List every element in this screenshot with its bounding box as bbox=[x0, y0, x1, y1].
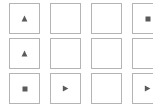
grid-cell-2-2[interactable] bbox=[91, 73, 122, 104]
grid-cell-2-3[interactable] bbox=[132, 73, 153, 104]
icon-grid-row bbox=[0, 3, 153, 36]
icon-grid-panel bbox=[0, 0, 153, 110]
grid-cell-1-2[interactable] bbox=[91, 38, 122, 69]
grid-cell-0-3[interactable] bbox=[132, 3, 153, 34]
triangle-right-icon bbox=[62, 85, 69, 92]
grid-cell-1-0[interactable] bbox=[9, 38, 40, 69]
square-stop-icon bbox=[145, 16, 151, 22]
grid-cell-0-1[interactable] bbox=[50, 3, 81, 34]
icon-grid-row bbox=[0, 73, 153, 106]
grid-cell-0-0[interactable] bbox=[9, 3, 40, 34]
icon-grid-row bbox=[0, 38, 153, 71]
grid-cell-1-3[interactable] bbox=[132, 38, 153, 69]
grid-cell-1-1[interactable] bbox=[50, 38, 81, 69]
grid-cell-0-2[interactable] bbox=[91, 3, 122, 34]
square-stop-icon bbox=[22, 86, 28, 92]
grid-cell-2-0[interactable] bbox=[9, 73, 40, 104]
triangle-up-icon bbox=[21, 15, 28, 22]
triangle-up-icon bbox=[21, 50, 28, 57]
grid-cell-2-1[interactable] bbox=[50, 73, 81, 104]
triangle-right-icon bbox=[144, 85, 151, 92]
